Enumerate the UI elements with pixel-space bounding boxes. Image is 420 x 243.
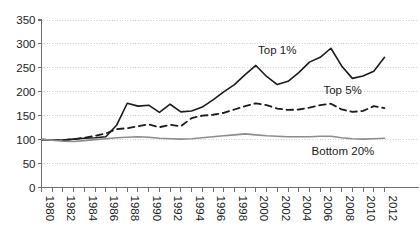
x-axis-label-1988: 1988 xyxy=(129,196,141,222)
gridlines-group xyxy=(42,20,420,188)
annotation-top-5: Top 5% xyxy=(323,84,361,96)
series-annotations-group: Top 1%Top 5%Bottom 20% xyxy=(258,44,374,157)
x-axis-label-2002: 2002 xyxy=(280,196,292,222)
axes-group xyxy=(42,19,420,188)
y-axis-label-250: 250 xyxy=(16,62,35,74)
y-axis-label-150: 150 xyxy=(16,110,35,122)
x-axis-label-1980: 1980 xyxy=(44,196,56,222)
x-axis-label-1992: 1992 xyxy=(172,196,184,222)
x-axis-label-1996: 1996 xyxy=(215,196,227,222)
chart-canvas: 050100150200250300350 198019821984198619… xyxy=(0,0,420,243)
y-axis-label-300: 300 xyxy=(16,38,35,50)
annotation-bottom-20: Bottom 20% xyxy=(312,145,375,157)
x-axis-label-2004: 2004 xyxy=(301,196,313,222)
x-axis-label-2000: 2000 xyxy=(258,196,270,222)
series-line-top-5 xyxy=(42,103,385,140)
x-axis-label-2010: 2010 xyxy=(365,196,377,222)
y-axis-label-100: 100 xyxy=(16,134,35,146)
y-axis-label-200: 200 xyxy=(16,86,35,98)
axis-ticks-group xyxy=(38,20,385,192)
x-axis-label-1994: 1994 xyxy=(194,196,206,222)
annotation-top-1: Top 1% xyxy=(258,44,296,56)
x-axis-label-2008: 2008 xyxy=(344,196,356,222)
x-axis-label-2006: 2006 xyxy=(322,196,334,222)
x-axis-label-1982: 1982 xyxy=(65,196,77,222)
x-axis-label-1986: 1986 xyxy=(108,196,120,222)
x-axis-label-2012: 2012 xyxy=(387,196,399,222)
y-axis-label-50: 50 xyxy=(23,158,36,170)
y-axis-label-0: 0 xyxy=(29,182,35,194)
x-axis-label-1984: 1984 xyxy=(87,196,99,222)
income-growth-line-chart: 050100150200250300350 198019821984198619… xyxy=(0,0,420,243)
x-axis-label-1990: 1990 xyxy=(151,196,163,222)
x-axis-labels-group: 1980198219841986198819901992199419961998… xyxy=(44,196,399,222)
x-axis-label-1998: 1998 xyxy=(237,196,249,222)
y-axis-label-350: 350 xyxy=(16,14,35,26)
y-axis-labels-group: 050100150200250300350 xyxy=(16,14,35,194)
